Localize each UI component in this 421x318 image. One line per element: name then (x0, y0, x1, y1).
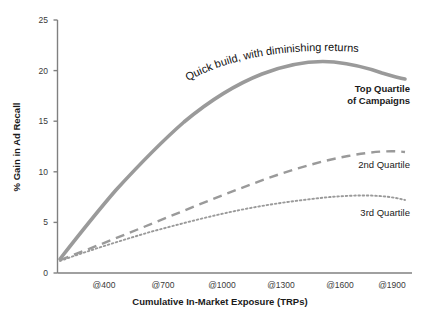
chart-container: 0 5 10 15 20 25 @400 @700 @1000 @1300 @1… (0, 0, 421, 318)
y-tick-label-15: 15 (39, 116, 49, 126)
series-label-top-quartile-line2: of Campaigns (347, 95, 410, 106)
x-tick-label-1300: @1300 (267, 280, 295, 290)
y-tick-label-0: 0 (43, 268, 48, 278)
ad-recall-line-chart: 0 5 10 15 20 25 @400 @700 @1000 @1300 @1… (0, 0, 421, 318)
x-tick-label-1000: @1000 (208, 280, 236, 290)
y-tick-label-25: 25 (39, 15, 49, 25)
x-axis-title: Cumulative In-Market Exposure (TRPs) (132, 296, 307, 307)
y-tick-label-10: 10 (39, 167, 49, 177)
y-tick-label-5: 5 (43, 217, 48, 227)
x-tick-label-1600: @1600 (326, 280, 354, 290)
y-axis-title: % Gain in Ad Recall (11, 103, 22, 192)
x-tick-label-700: @700 (152, 280, 175, 290)
series-label-3rd-quartile: 3rd Quartile (360, 207, 410, 218)
y-tick-label-20: 20 (39, 66, 49, 76)
series-label-top-quartile-line1: Top Quartile (355, 83, 410, 94)
series-line-3rd-quartile (60, 195, 405, 261)
series-line-top-quartile (60, 62, 405, 260)
x-tick-label-1900: @1900 (378, 280, 406, 290)
series-label-2nd-quartile: 2nd Quartile (358, 159, 410, 170)
x-tick-label-400: @400 (93, 280, 116, 290)
